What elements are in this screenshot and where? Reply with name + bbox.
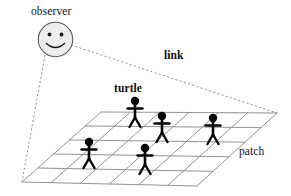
netlogo-diagram: observer turtle link patch xyxy=(0,0,291,196)
smiley-face-icon[interactable] xyxy=(38,22,72,56)
smiley-eye-right xyxy=(60,33,64,37)
grid-col-6 xyxy=(197,113,277,186)
turtles-group xyxy=(82,97,221,174)
smiley-eye-left xyxy=(48,33,52,37)
link-line-left xyxy=(22,55,45,182)
label-patch: patch xyxy=(239,146,264,158)
label-link: link xyxy=(164,50,184,62)
turtle-figure-5[interactable] xyxy=(138,144,153,174)
label-turtle: turtle xyxy=(114,83,142,95)
turtle-figure-4[interactable] xyxy=(82,138,97,168)
grid-col-1 xyxy=(51,112,130,183)
diagram-canvas xyxy=(0,0,291,196)
grid-col-5 xyxy=(168,113,248,186)
observer-sight-lines xyxy=(22,45,277,182)
label-observer: observer xyxy=(31,6,71,18)
